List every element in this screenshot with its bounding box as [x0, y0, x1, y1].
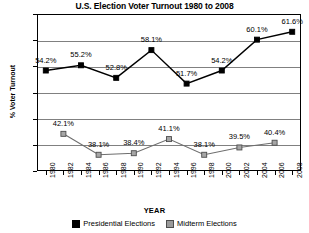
x-axis-tick-mark	[187, 171, 188, 175]
data-point-marker	[255, 37, 260, 42]
data-point-label: 61.6%	[282, 18, 303, 26]
data-point-marker	[149, 48, 154, 53]
data-point-label: 38.4%	[123, 139, 144, 147]
legend-label: Midterm Elections	[177, 219, 237, 228]
data-point-marker	[290, 29, 295, 34]
x-axis-tick-mark	[204, 171, 205, 175]
data-point-label: 58.1%	[141, 36, 162, 44]
data-point-marker	[219, 68, 224, 73]
data-point-label: 54.2%	[211, 57, 232, 65]
x-axis-tick-mark	[134, 171, 135, 175]
legend-label: Presidential Elections	[83, 219, 155, 228]
x-axis-tick-mark	[46, 171, 47, 175]
data-point-label: 41.1%	[158, 125, 179, 133]
data-point-marker	[272, 140, 277, 145]
data-point-marker	[202, 152, 207, 157]
chart-legend: Presidential ElectionsMidterm Elections	[0, 219, 309, 228]
data-point-label: 55.2%	[70, 51, 91, 59]
series-layer	[37, 14, 301, 171]
data-point-label: 60.1%	[246, 26, 267, 34]
data-point-label: 40.4%	[264, 129, 285, 137]
data-point-label: 38.1%	[88, 141, 109, 149]
legend-swatch-icon	[166, 220, 174, 228]
x-axis-tick-mark	[222, 171, 223, 175]
data-point-label: 39.5%	[229, 133, 250, 141]
data-point-label: 38.1%	[194, 141, 215, 149]
data-point-marker	[96, 152, 101, 157]
data-point-marker	[167, 137, 172, 142]
data-point-label: 54.2%	[35, 57, 56, 65]
chart-title: U.S. Election Voter Turnout 1980 to 2008	[0, 1, 309, 11]
x-axis-tick-mark	[257, 171, 258, 175]
legend-swatch-icon	[72, 220, 80, 228]
data-point-label: 42.1%	[53, 120, 74, 128]
data-point-marker	[43, 68, 48, 73]
x-axis-tick-mark	[99, 171, 100, 175]
data-point-label: 51.7%	[176, 70, 197, 78]
x-axis-tick-mark	[63, 171, 64, 175]
data-point-marker	[184, 81, 189, 86]
x-axis-tick-mark	[169, 171, 170, 175]
x-axis-title: YEAR	[0, 206, 309, 215]
x-axis-tick-mark	[239, 171, 240, 175]
x-axis-tick-mark	[81, 171, 82, 175]
data-point-marker	[79, 63, 84, 68]
legend-entry[interactable]: Midterm Elections	[166, 219, 237, 228]
data-point-marker	[61, 131, 66, 136]
data-point-label: 52.8%	[106, 64, 127, 72]
x-axis-tick-mark	[292, 171, 293, 175]
y-axis-tick-mark	[33, 171, 37, 172]
x-axis-tick-mark	[151, 171, 152, 175]
x-axis-tick-mark	[275, 171, 276, 175]
chart-container: U.S. Election Voter Turnout 1980 to 2008…	[0, 0, 309, 233]
data-point-marker	[131, 151, 136, 156]
legend-entry[interactable]: Presidential Elections	[72, 219, 155, 228]
data-point-marker	[114, 75, 119, 80]
x-axis-tick-mark	[116, 171, 117, 175]
y-axis-title: % Voter Turnout	[9, 52, 16, 132]
data-point-marker	[237, 145, 242, 150]
